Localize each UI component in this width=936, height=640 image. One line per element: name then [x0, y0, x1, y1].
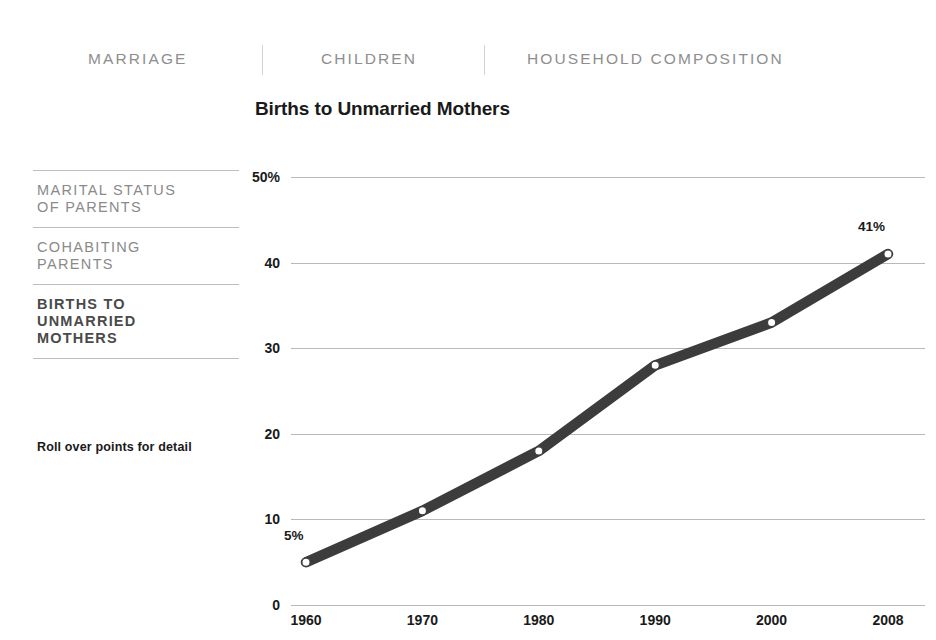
- data-point-marker[interactable]: [884, 250, 892, 258]
- gridline: [291, 434, 925, 435]
- x-axis-tick-label: 1970: [387, 612, 457, 628]
- rollover-hint: Roll over points for detail: [37, 440, 192, 454]
- x-axis-tick-label: 1990: [620, 612, 690, 628]
- data-point-label: 41%: [858, 219, 885, 234]
- y-axis-tick-text: 10: [222, 511, 280, 527]
- tab-children[interactable]: CHILDREN: [321, 40, 417, 78]
- top-navigation: MARRIAGE CHILDREN HOUSEHOLD COMPOSITION: [0, 40, 936, 78]
- tab-separator: [262, 45, 263, 75]
- tab-marriage[interactable]: MARRIAGE: [88, 40, 187, 78]
- sidebar-item-marital-status-of-parents[interactable]: MARITAL STATUS OF PARENTS: [33, 170, 239, 227]
- sidebar-item-cohabiting-parents[interactable]: COHABITING PARENTS: [33, 227, 239, 284]
- y-axis-tick-label: 20: [222, 426, 280, 442]
- sidebar-divider: [33, 358, 239, 359]
- y-axis-tick-label: 0: [222, 597, 280, 613]
- x-axis-tick-label: 2008: [853, 612, 923, 628]
- x-axis-tick-label: 1980: [504, 612, 574, 628]
- series-line: [306, 254, 888, 562]
- page-title: Births to Unmarried Mothers: [255, 98, 510, 120]
- data-point-marker[interactable]: [651, 361, 659, 369]
- y-axis-tick-text: 20: [222, 426, 280, 442]
- y-axis-tick-label: 10: [222, 511, 280, 527]
- data-point-marker[interactable]: [768, 318, 776, 326]
- sidebar-item-births-to-unmarried-mothers[interactable]: BIRTHS TO UNMARRIED MOTHERS: [33, 284, 239, 358]
- x-axis-tick-label: 2000: [737, 612, 807, 628]
- y-axis-tick-text: 0: [222, 597, 280, 613]
- gridline: [291, 605, 925, 606]
- gridline: [291, 177, 925, 178]
- tab-household-composition[interactable]: HOUSEHOLD COMPOSITION: [527, 40, 784, 78]
- data-point-marker[interactable]: [302, 558, 310, 566]
- gridline: [291, 263, 925, 264]
- tab-separator: [484, 45, 485, 75]
- gridline: [291, 348, 925, 349]
- data-point-marker[interactable]: [535, 447, 543, 455]
- gridline: [291, 519, 925, 520]
- data-point-label: 5%: [284, 528, 304, 543]
- sidebar: MARITAL STATUS OF PARENTS COHABITING PAR…: [33, 170, 239, 359]
- data-point-marker[interactable]: [418, 507, 426, 515]
- x-axis-tick-label: 1960: [271, 612, 341, 628]
